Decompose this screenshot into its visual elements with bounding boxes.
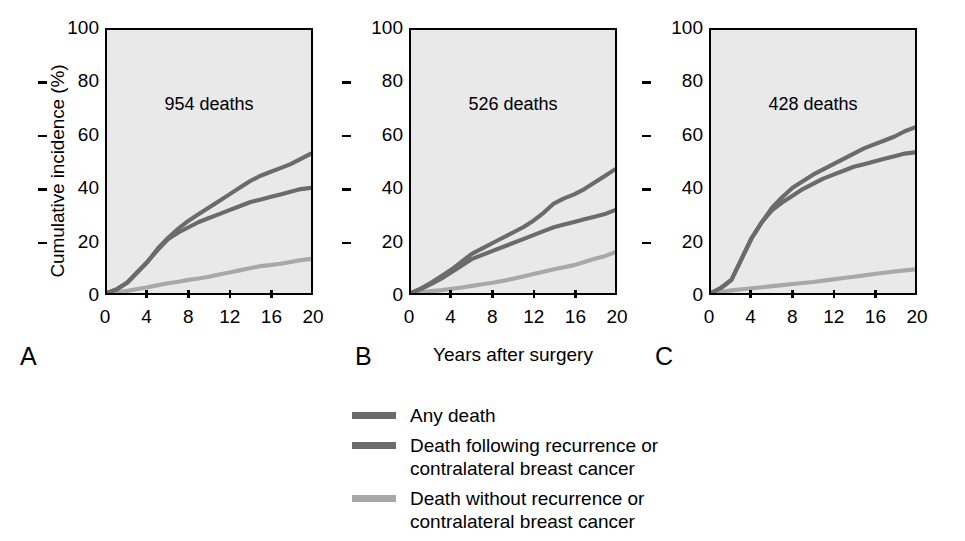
deaths-annotation-b: 526 deaths (409, 94, 617, 115)
x-tick-label: 20 (897, 306, 937, 328)
y-tick-label: 0 (651, 283, 703, 307)
series-line (711, 269, 915, 293)
y-tick-label: 80 (651, 69, 703, 93)
figure-panel-chart: Cumulative incidence (%) 954 deaths 0204… (0, 0, 965, 541)
x-tick-label: 4 (731, 306, 771, 328)
y-tick-label: 40 (651, 176, 703, 200)
y-tick-label: 40 (47, 176, 99, 200)
y-tick-label: 100 (651, 16, 703, 40)
plot-curves-c (711, 30, 915, 293)
y-tick-label: 80 (351, 69, 403, 93)
plot-area-b (409, 28, 617, 295)
y-tick-mark (342, 242, 351, 245)
legend-item: Any death (352, 404, 872, 427)
legend: Any deathDeath following recurrence or c… (352, 404, 872, 540)
x-tick-label: 4 (127, 306, 167, 328)
y-tick-label: 40 (351, 176, 403, 200)
y-tick-mark (38, 242, 47, 245)
y-tick-mark (342, 81, 351, 84)
x-tick-label: 16 (555, 306, 595, 328)
y-tick-label: 80 (47, 69, 99, 93)
x-tick-mark (449, 290, 452, 298)
y-tick-mark (642, 188, 651, 191)
y-tick-mark (642, 242, 651, 245)
y-tick-label: 20 (47, 230, 99, 254)
legend-label: Death following recurrence or contralate… (410, 434, 658, 480)
plot-curves-a (107, 30, 311, 293)
legend-label: Death without recurrence or contralatera… (410, 487, 644, 533)
x-tick-mark (749, 290, 752, 298)
x-tick-label: 20 (597, 306, 637, 328)
x-tick-mark (187, 290, 190, 298)
series-line (107, 154, 311, 293)
y-tick-mark (642, 135, 651, 138)
x-tick-mark (145, 290, 148, 298)
panel-a: 954 deaths 020406080100 048121620 (105, 28, 313, 295)
legend-swatch-icon (352, 442, 396, 449)
y-tick-label: 0 (47, 283, 99, 307)
x-tick-mark (229, 290, 232, 298)
x-tick-label: 12 (210, 306, 250, 328)
legend-label: Any death (410, 404, 496, 427)
x-tick-label: 8 (472, 306, 512, 328)
panel-letter-b: B (355, 344, 372, 369)
x-tick-label: 16 (251, 306, 291, 328)
x-axis-title: Years after surgery (409, 344, 617, 366)
y-tick-label: 20 (351, 230, 403, 254)
panel-b: 526 deaths 020406080100 048121620 (409, 28, 617, 295)
panel-letter-c: C (655, 344, 673, 369)
x-axis-a: 048121620 (105, 298, 313, 328)
plot-area-a (105, 28, 313, 295)
y-tick-mark (38, 188, 47, 191)
y-tick-mark (38, 135, 47, 138)
y-tick-mark (38, 81, 47, 84)
plot-curves-b (411, 30, 615, 293)
x-tick-label: 12 (814, 306, 854, 328)
deaths-annotation-c: 428 deaths (709, 94, 917, 115)
series-line (107, 259, 311, 293)
y-tick-label: 20 (651, 230, 703, 254)
x-tick-label: 8 (168, 306, 208, 328)
deaths-annotation-a: 954 deaths (105, 94, 313, 115)
legend-item: Death following recurrence or contralate… (352, 434, 872, 480)
y-tick-label: 0 (351, 283, 403, 307)
legend-swatch-icon (352, 412, 396, 419)
x-tick-label: 20 (293, 306, 333, 328)
y-axis-b: 020406080100 (351, 16, 403, 307)
x-tick-label: 16 (855, 306, 895, 328)
x-tick-label: 12 (514, 306, 554, 328)
y-tick-label: 100 (47, 16, 99, 40)
x-tick-mark (270, 290, 273, 298)
y-axis-c: 020406080100 (651, 16, 703, 307)
x-tick-label: 0 (389, 306, 429, 328)
x-tick-mark (791, 290, 794, 298)
y-tick-label: 60 (47, 123, 99, 147)
series-line (411, 252, 615, 293)
x-tick-label: 8 (772, 306, 812, 328)
x-tick-label: 4 (431, 306, 471, 328)
x-axis-b: 048121620 (409, 298, 617, 328)
y-tick-mark (642, 81, 651, 84)
legend-swatch-icon (352, 495, 396, 502)
x-tick-mark (533, 290, 536, 298)
plot-area-c (709, 28, 917, 295)
x-tick-mark (874, 290, 877, 298)
x-tick-mark (833, 290, 836, 298)
y-tick-mark (342, 135, 351, 138)
x-tick-label: 0 (689, 306, 729, 328)
panel-c: 428 deaths 020406080100 048121620 (709, 28, 917, 295)
series-line (411, 169, 615, 293)
y-tick-mark (342, 188, 351, 191)
y-tick-label: 100 (351, 16, 403, 40)
y-tick-label: 60 (351, 123, 403, 147)
x-axis-c: 048121620 (709, 298, 917, 328)
panel-letter-a: A (20, 344, 37, 369)
y-tick-label: 60 (651, 123, 703, 147)
y-axis-a: 020406080100 (47, 16, 99, 307)
series-line (711, 127, 915, 293)
x-tick-label: 0 (85, 306, 125, 328)
legend-item: Death without recurrence or contralatera… (352, 487, 872, 533)
x-tick-mark (574, 290, 577, 298)
x-tick-mark (491, 290, 494, 298)
